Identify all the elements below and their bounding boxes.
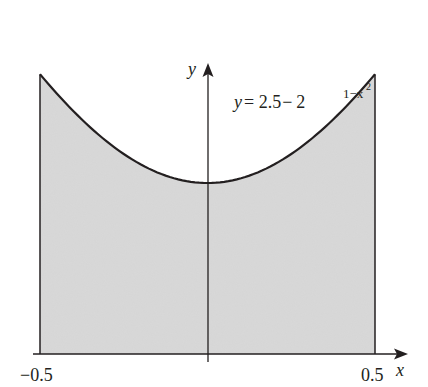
area-under-curve-chart: y x −0.5 0.5 y= 2.5−2 1−x 2 — [0, 0, 428, 387]
x-axis-label: x — [395, 360, 404, 380]
x-tick-label-min: −0.5 — [20, 365, 53, 385]
fn-label-y: y — [232, 92, 242, 112]
svg-text:1−x: 1−x — [343, 86, 364, 101]
svg-text:y= 2.5−2: y= 2.5−2 — [232, 92, 305, 112]
y-axis-label: y — [186, 59, 196, 79]
fn-label-exponent: 1−x — [343, 86, 364, 101]
fn-label-base: 2 — [296, 92, 305, 112]
fn-label-exponent-power: 2 — [366, 81, 371, 92]
x-tick-label-max: 0.5 — [361, 365, 384, 385]
fn-label-equals: = 2.5 — [244, 92, 281, 112]
fn-label-minus: − — [282, 92, 292, 112]
